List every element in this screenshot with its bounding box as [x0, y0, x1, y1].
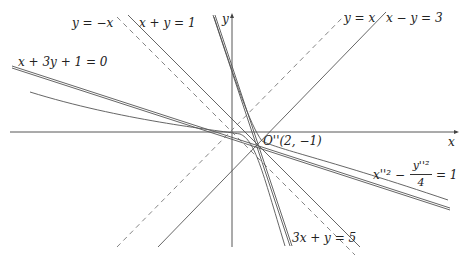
label-x-minus-y-eq-3: x − y = 3 — [386, 12, 443, 24]
line-x-minus-y-eq-3 — [158, 12, 386, 247]
line-x-plus-3y-plus-1-eq-0-b — [12, 68, 450, 210]
line-x-plus-3y-plus-1-eq-0 — [12, 66, 450, 208]
hyperbola-label-numerator: y''² — [409, 160, 433, 171]
hyperbola-label-denominator: 4 — [409, 177, 433, 188]
hyperbola-label-rhs: = 1 — [436, 169, 458, 181]
line-y-eq-x — [117, 15, 345, 247]
line-3x-plus-y-eq-5-b — [215, 15, 292, 246]
x-axis-arrow-icon — [454, 130, 459, 134]
x-axis-label: x — [448, 136, 455, 148]
y-axis-label: y — [222, 13, 229, 25]
center-label: O''(2, −1) — [263, 135, 322, 147]
label-y-eq-x: y = x — [344, 12, 375, 24]
hyperbola-upper-branch — [214, 17, 448, 200]
label-x-plus-y-eq-1: x + y = 1 — [139, 17, 196, 29]
label-x-plus-3y-plus-1-eq-0: x + 3y + 1 = 0 — [18, 56, 108, 68]
label-3x-plus-y-eq-5: 3x + y = 5 — [292, 232, 356, 244]
hyperbola-label-lhs: x''² − — [373, 169, 405, 181]
line-x-plus-y-eq-1 — [128, 15, 360, 247]
hyperbola-label-fraction-bar — [410, 174, 432, 175]
diagram-canvas — [0, 0, 467, 259]
y-axis-arrow-icon — [230, 13, 234, 18]
label-y-eq-neg-x: y = −x — [72, 17, 113, 29]
